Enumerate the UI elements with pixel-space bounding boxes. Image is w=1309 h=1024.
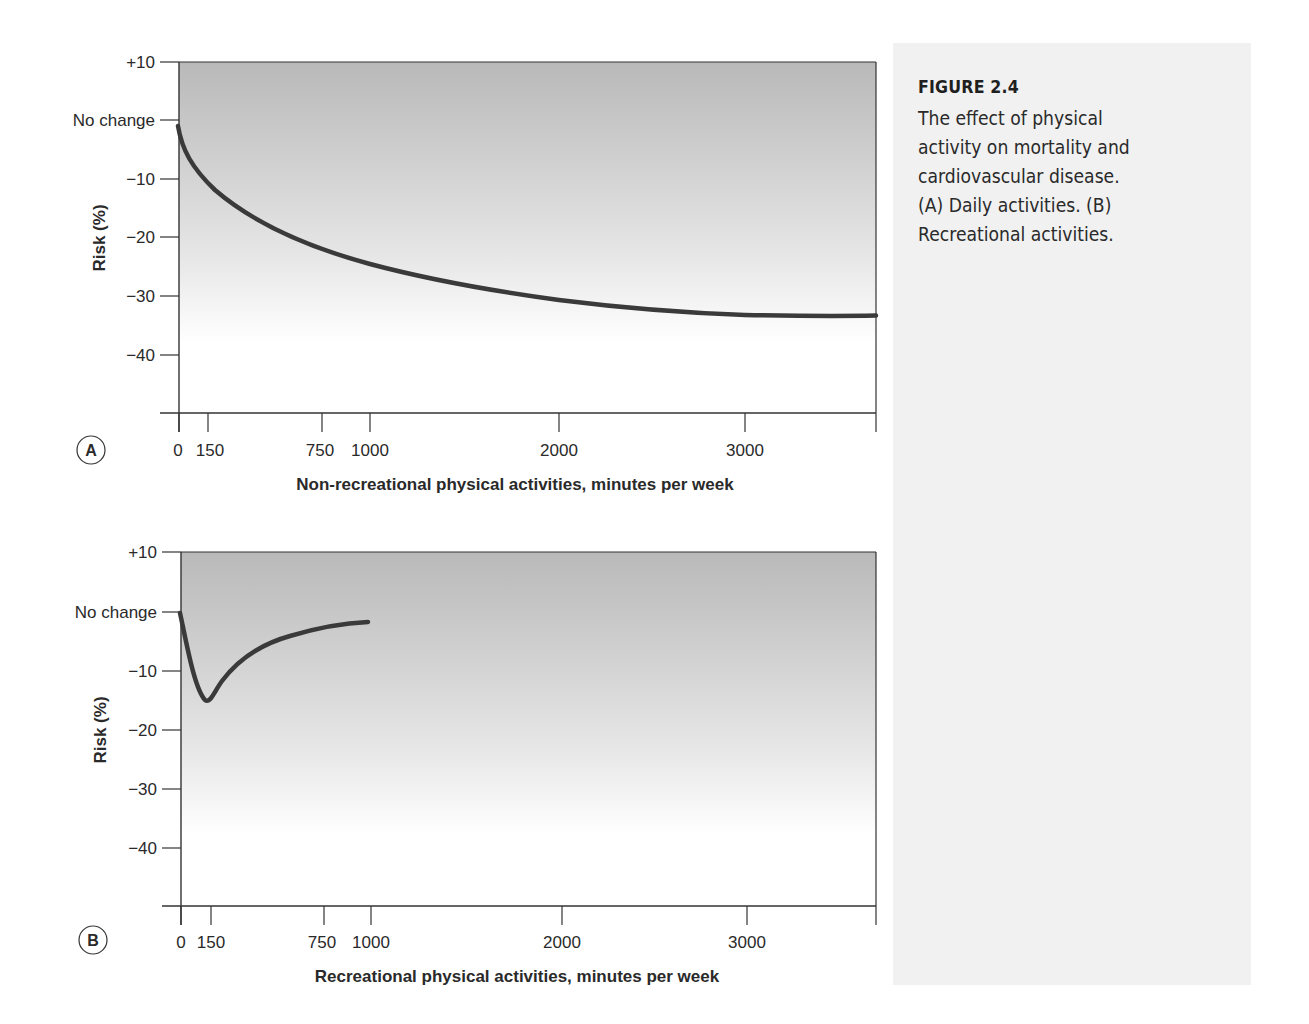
svg-text:A: A — [85, 442, 97, 459]
x-ticks-b — [181, 906, 747, 925]
x-tick-a-5: 3000 — [726, 441, 764, 460]
figure-caption: The effect of physical activity on morta… — [918, 104, 1193, 249]
x-axis-title-b: Recreational physical activities, minute… — [315, 967, 720, 986]
x-tick-b-3: 1000 — [352, 933, 390, 952]
chart-panel-a: +10 No change −10 −20 −30 −40 0 150 750 … — [73, 53, 876, 494]
y-tick-a-3: −20 — [126, 228, 155, 247]
x-tick-a-3: 1000 — [351, 441, 389, 460]
x-tick-a-0: 0 — [173, 441, 182, 460]
y-ticks-b — [162, 552, 181, 848]
x-tick-b-0: 0 — [176, 933, 185, 952]
x-tick-b-5: 3000 — [728, 933, 766, 952]
y-tick-a-5: −40 — [126, 346, 155, 365]
x-ticks-a — [179, 413, 745, 432]
y-tick-b-1: No change — [75, 603, 157, 622]
x-tick-b-4: 2000 — [543, 933, 581, 952]
x-tick-a-4: 2000 — [540, 441, 578, 460]
y-tick-a-4: −30 — [126, 287, 155, 306]
y-tick-a-1: No change — [73, 111, 155, 130]
plot-area-b — [181, 552, 876, 906]
y-tick-a-2: −10 — [126, 170, 155, 189]
y-tick-b-3: −20 — [128, 721, 157, 740]
y-ticks-a — [160, 62, 179, 355]
y-tick-b-0: +10 — [128, 543, 157, 562]
y-axis-title-a: Risk (%) — [90, 204, 109, 271]
chart-panel-b: +10 No change −10 −20 −30 −40 0 150 750 … — [75, 543, 876, 986]
y-tick-b-5: −40 — [128, 839, 157, 858]
y-tick-a-0: +10 — [126, 53, 155, 72]
figure-caption-panel: FIGURE 2.4 The effect of physical activi… — [893, 43, 1251, 985]
y-tick-b-2: −10 — [128, 662, 157, 681]
panel-label-a: A — [77, 436, 105, 464]
x-tick-a-2: 750 — [306, 441, 334, 460]
y-tick-b-4: −30 — [128, 780, 157, 799]
svg-text:B: B — [87, 932, 99, 949]
y-axis-title-b: Risk (%) — [91, 696, 110, 763]
figure-label: FIGURE 2.4 — [918, 76, 1019, 97]
x-tick-b-2: 750 — [308, 933, 336, 952]
panel-label-b: B — [79, 926, 107, 954]
x-tick-b-1: 150 — [197, 933, 225, 952]
x-tick-a-1: 150 — [196, 441, 224, 460]
plot-area-a — [179, 62, 876, 413]
x-axis-title-a: Non-recreational physical activities, mi… — [296, 475, 734, 494]
